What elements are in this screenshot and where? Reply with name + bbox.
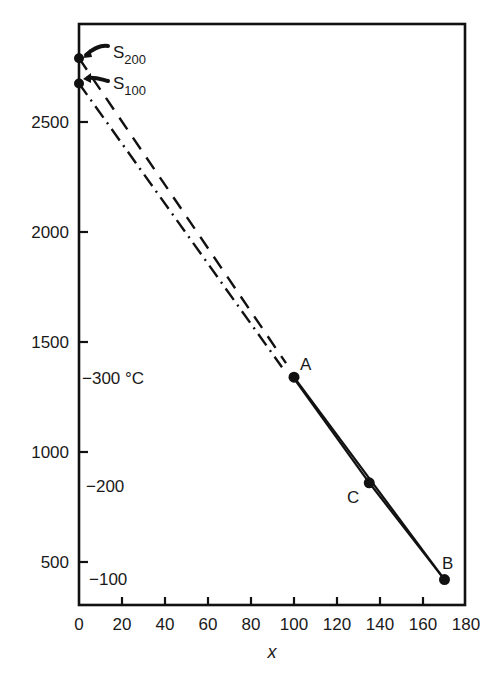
x-tick-label: 160	[409, 615, 437, 634]
chart-canvas: 020406080100120140160180 500100015002000…	[0, 0, 493, 678]
x-tick-label: 180	[452, 615, 480, 634]
y-tick-label: 500	[41, 553, 69, 572]
y-tick-label: 2000	[31, 223, 69, 242]
data-point-c	[364, 477, 375, 488]
y-tick-label: 1000	[31, 443, 69, 462]
label-point-a: A	[300, 355, 312, 374]
x-tick-label: 140	[366, 615, 394, 634]
label-s200: S200	[113, 43, 146, 67]
series-line-s200-to-a	[79, 58, 286, 363]
x-axis-ticks: 020406080100120140160180	[74, 597, 480, 634]
series-line-s100-to-a	[79, 84, 282, 368]
plot-frame	[79, 24, 465, 605]
y-tick-label: 1500	[31, 333, 69, 352]
data-point-s100	[74, 79, 84, 89]
data-point-s200	[74, 53, 84, 63]
series-line-c-to-b	[369, 483, 444, 580]
series-layer	[79, 58, 445, 579]
label-temp-minus-100: −100	[89, 570, 127, 589]
x-tick-label: 0	[74, 615, 83, 634]
data-point-a	[289, 372, 300, 383]
points-layer	[74, 53, 450, 585]
x-tick-label: 60	[199, 615, 218, 634]
y-tick-label: 2500	[31, 113, 69, 132]
x-tick-label: 120	[323, 615, 351, 634]
label-point-b: B	[442, 554, 453, 573]
label-s100: S100	[113, 74, 146, 98]
label-temp-minus-300: −300 °C	[82, 369, 144, 388]
x-tick-label: 80	[242, 615, 261, 634]
label-point-c: C	[347, 488, 359, 507]
x-tick-label: 40	[156, 615, 175, 634]
x-axis-title: x	[267, 642, 278, 662]
x-tick-label: 20	[113, 615, 132, 634]
arrowhead-s100-icon	[83, 73, 91, 83]
label-temp-minus-200: −200	[86, 477, 124, 496]
data-point-b	[439, 574, 450, 585]
chart: 020406080100120140160180 500100015002000…	[0, 0, 493, 678]
x-tick-label: 100	[280, 615, 308, 634]
